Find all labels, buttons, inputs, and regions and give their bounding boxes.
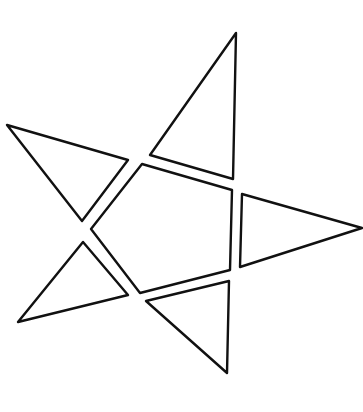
top-triangle xyxy=(150,33,236,179)
center-pentagon xyxy=(91,164,232,293)
star-diagram xyxy=(0,0,363,412)
bottom-triangle xyxy=(146,281,229,373)
right-triangle xyxy=(240,194,362,267)
